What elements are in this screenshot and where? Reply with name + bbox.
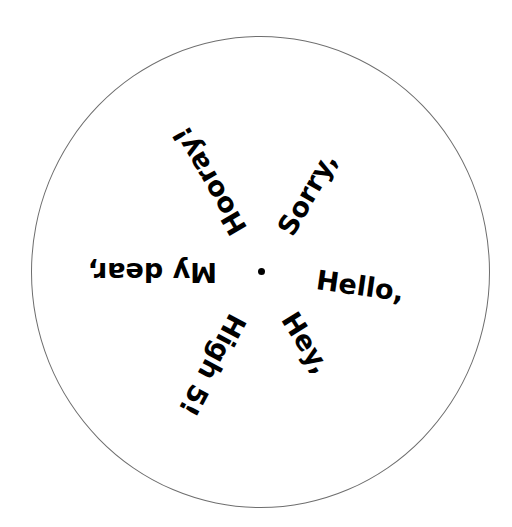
word-label: My dear, [88,259,217,286]
word-my-dear: My dear, [88,245,217,272]
center-dot [258,268,265,275]
